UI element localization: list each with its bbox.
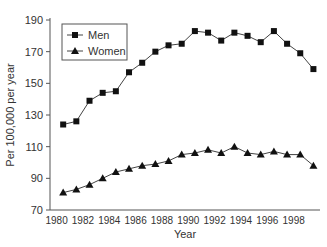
x-tick-label: 1994	[230, 215, 253, 226]
y-tick-label: 70	[31, 204, 43, 216]
data-point	[139, 60, 145, 66]
chart: 7090110130150170190198019821984198619881…	[0, 0, 327, 247]
data-point	[60, 122, 66, 128]
data-point	[126, 69, 132, 75]
data-point	[99, 174, 107, 181]
data-point	[245, 33, 251, 39]
y-tick-label: 110	[25, 141, 43, 153]
data-point	[86, 181, 94, 188]
data-point	[113, 88, 119, 94]
x-tick-label: 1982	[72, 215, 95, 226]
data-point	[270, 147, 278, 154]
data-point	[310, 66, 316, 72]
x-tick-label: 1996	[256, 215, 279, 226]
data-point	[192, 28, 198, 34]
y-tick-label: 130	[25, 109, 43, 121]
x-tick-label: 1980	[45, 215, 68, 226]
data-point	[204, 146, 212, 153]
y-tick-label: 190	[25, 14, 43, 26]
y-axis-label: Per 100,000 per year	[4, 63, 16, 167]
x-tick-label: 1988	[151, 215, 174, 226]
data-point	[165, 157, 173, 164]
data-point	[73, 118, 79, 124]
data-point	[205, 30, 211, 36]
x-axis-label: Year	[174, 228, 197, 240]
legend-label: Women	[88, 45, 126, 57]
data-point	[231, 30, 237, 36]
data-point	[297, 50, 303, 56]
x-tick-label: 1986	[124, 215, 147, 226]
data-point	[100, 90, 106, 96]
line-chart: 7090110130150170190198019821984198619881…	[0, 0, 327, 247]
data-point	[87, 98, 93, 104]
y-tick-label: 170	[25, 46, 43, 58]
data-point	[244, 149, 252, 156]
data-point	[284, 41, 290, 47]
x-tick-label: 1990	[177, 215, 200, 226]
data-point	[179, 41, 185, 47]
data-point	[271, 28, 277, 34]
data-point	[152, 49, 158, 55]
legend-marker-icon	[72, 32, 78, 38]
x-tick-label: 1992	[204, 215, 227, 226]
legend-label: Men	[88, 29, 109, 41]
data-point	[166, 42, 172, 48]
data-point	[230, 143, 238, 150]
x-tick-label: 1998	[283, 215, 306, 226]
x-tick-label: 1984	[98, 215, 121, 226]
data-point	[258, 39, 264, 45]
data-point	[218, 38, 224, 44]
y-tick-label: 150	[25, 77, 43, 89]
y-tick-label: 90	[31, 172, 43, 184]
